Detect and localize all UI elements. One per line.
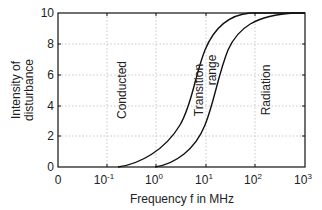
y-tick-2: 2 (47, 129, 54, 143)
x-tick-3: 101 (195, 172, 213, 187)
x-tick-0: 0 (55, 173, 62, 187)
y-tick-0: 0 (47, 160, 54, 174)
x-tick-5: 103 (294, 172, 312, 187)
series-lower-boundary (118, 13, 305, 167)
series-upper-boundary (155, 13, 305, 167)
x-tick-4: 102 (244, 172, 262, 187)
y-axis-label-line1: Intensity of (9, 60, 23, 119)
annotation-transition-line1: Transition (192, 64, 206, 116)
y-axis-label-line2: disturbance (22, 59, 36, 121)
annotation-transition-line2: range (205, 54, 219, 85)
y-tick-8: 8 (47, 37, 54, 51)
annotation-radiation: Radiation (259, 65, 273, 116)
x-axis-label: Frequency f in MHz (130, 192, 234, 206)
x-tick-1: 10-1 (94, 172, 115, 187)
annotation-conducted: Conducted (115, 61, 129, 119)
chart: 0 2 4 6 8 10 0 10-1 100 101 102 103 Freq… (0, 0, 322, 210)
y-tick-10: 10 (41, 6, 55, 20)
y-tick-6: 6 (47, 68, 54, 82)
y-tick-4: 4 (47, 99, 54, 113)
x-tick-2: 100 (145, 172, 163, 187)
